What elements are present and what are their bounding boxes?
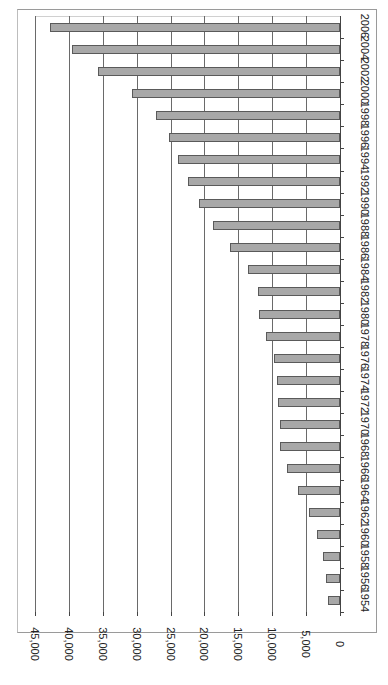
value-axis-label: 5,000 [300, 619, 312, 669]
bar-2000 [132, 89, 340, 98]
bar-1972 [278, 398, 340, 407]
bar-2004 [72, 45, 340, 54]
value-axis-label: 25,000 [165, 619, 177, 669]
bar-1980 [259, 310, 340, 319]
category-tick [340, 457, 344, 458]
gridline [204, 16, 205, 612]
category-tick [340, 325, 344, 326]
gridline [137, 16, 138, 612]
value-axis-label: 10,000 [266, 619, 278, 669]
category-tick [340, 435, 344, 436]
bar-2006 [50, 23, 340, 32]
bar-1984 [248, 265, 340, 274]
value-axis-label: 0 [334, 619, 346, 669]
category-tick [340, 546, 344, 547]
category-tick [340, 347, 344, 348]
value-tick [306, 612, 307, 616]
category-tick [340, 413, 344, 414]
bar-1998 [156, 111, 340, 120]
bar-1974 [277, 376, 340, 385]
category-tick [340, 568, 344, 569]
bar-2002 [98, 67, 340, 76]
category-tick [340, 281, 344, 282]
category-label: 2006 [359, 9, 371, 43]
value-tick [238, 612, 239, 616]
bar-1962 [309, 508, 340, 517]
value-tick [35, 612, 36, 616]
category-tick [340, 104, 344, 105]
bar-1986 [230, 243, 340, 252]
value-axis-label: 30,000 [131, 619, 143, 669]
bar-1958 [323, 552, 340, 561]
category-tick [340, 148, 344, 149]
bar-1970 [280, 420, 340, 429]
category-tick [340, 82, 344, 83]
category-tick [340, 524, 344, 525]
category-tick [340, 193, 344, 194]
bar-1988 [213, 221, 340, 230]
value-axis-label: 20,000 [198, 619, 210, 669]
category-tick [340, 480, 344, 481]
bar-1976 [274, 354, 340, 363]
category-tick [340, 502, 344, 503]
category-tick [340, 612, 344, 613]
bar-1964 [298, 486, 340, 495]
value-tick [204, 612, 205, 616]
value-axis-label: 40,000 [63, 619, 75, 669]
value-tick [272, 612, 273, 616]
bar-1968 [280, 442, 340, 451]
category-tick [340, 259, 344, 260]
value-tick [103, 612, 104, 616]
gridline [238, 16, 239, 612]
category-tick [340, 171, 344, 172]
value-tick [171, 612, 172, 616]
bar-1954 [328, 596, 340, 605]
category-tick [340, 38, 344, 39]
bar-1992 [188, 177, 340, 186]
category-tick [340, 303, 344, 304]
bar-1982 [258, 287, 340, 296]
value-tick [137, 612, 138, 616]
bar-1994 [178, 155, 340, 164]
bar-1990 [199, 199, 340, 208]
gridline [171, 16, 172, 612]
category-tick [340, 369, 344, 370]
bar-1956 [326, 574, 340, 583]
bar-1978 [266, 332, 340, 341]
value-axis-label: 35,000 [97, 619, 109, 669]
bar-1966 [287, 464, 340, 473]
category-tick [340, 590, 344, 591]
category-tick [340, 126, 344, 127]
value-axis-label: 45,000 [29, 619, 41, 669]
value-axis-label: 15,000 [232, 619, 244, 669]
gridline [35, 16, 36, 612]
gridline [103, 16, 104, 612]
gridline [69, 16, 70, 612]
bar-1996 [169, 133, 340, 142]
bar-1960 [317, 530, 340, 539]
category-tick [340, 391, 344, 392]
category-tick [340, 215, 344, 216]
category-tick [340, 60, 344, 61]
category-tick [340, 237, 344, 238]
value-tick [69, 612, 70, 616]
